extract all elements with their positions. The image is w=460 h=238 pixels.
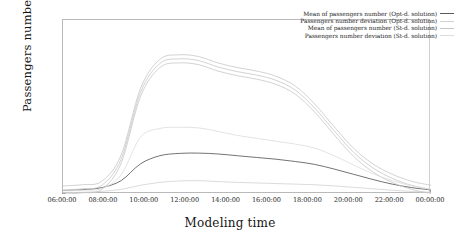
legend-color-swatch xyxy=(440,21,454,22)
x-tick-label: 00:00:00 xyxy=(400,196,460,204)
y-axis-label: Passengers number xyxy=(20,0,34,128)
plot-area xyxy=(62,19,430,193)
chart-container: Passengers number Modeling time 05001000… xyxy=(0,0,460,238)
series-line xyxy=(63,153,431,190)
legend-label: Mean of passengers number (Opt-d. soluti… xyxy=(303,11,437,17)
x-axis-label: Modeling time xyxy=(0,216,460,230)
legend-color-swatch xyxy=(440,13,454,14)
legend-item[interactable]: Passengers number deviation (Opt-d. solu… xyxy=(300,17,454,24)
legend-label: Mean of passengers number (St-d. solutio… xyxy=(308,25,437,31)
series-lines xyxy=(63,20,431,194)
legend-color-swatch xyxy=(440,35,454,36)
legend-label: Passengers number deviation (St-d. solut… xyxy=(305,33,437,39)
legend-item[interactable]: Mean of passengers number (St-d. solutio… xyxy=(308,25,454,32)
legend-label: Passengers number deviation (Opt-d. solu… xyxy=(300,18,437,24)
series-line xyxy=(63,63,431,194)
chart-legend: Mean of passengers number (Opt-d. soluti… xyxy=(262,10,454,40)
series-line xyxy=(63,127,431,191)
legend-item[interactable]: Mean of passengers number (Opt-d. soluti… xyxy=(303,10,454,17)
legend-item[interactable]: Passengers number deviation (St-d. solut… xyxy=(305,32,454,39)
legend-color-swatch xyxy=(440,28,454,29)
